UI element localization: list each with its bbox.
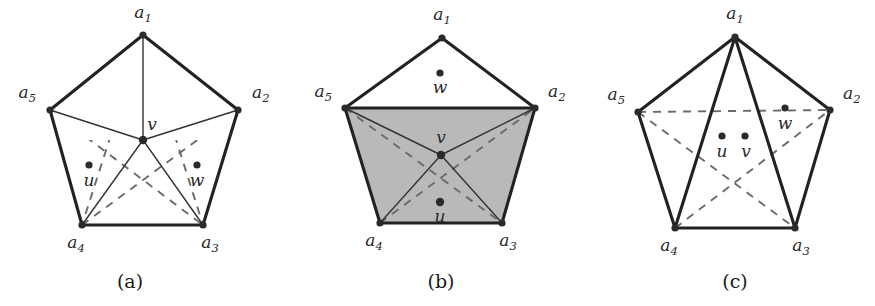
vertex-dot-a5 bbox=[634, 108, 641, 115]
vertex-dot-a3 bbox=[199, 221, 206, 228]
vertex-dot-a4 bbox=[78, 221, 85, 228]
figure-canvas: a1a2a3a4a5vuw(a)a1a2a3a4a5vuw(b)a1a2a3a4… bbox=[0, 0, 875, 306]
vertex-dot-a1 bbox=[139, 31, 146, 38]
point-label-w: w bbox=[190, 170, 205, 190]
vertex-dot-a5 bbox=[341, 104, 348, 111]
point-dot-u bbox=[436, 198, 444, 206]
vertex-dot-a1 bbox=[731, 33, 738, 40]
vertex-dot-a2 bbox=[234, 106, 241, 113]
point-label-u: u bbox=[717, 141, 728, 161]
vertex-dot-a4 bbox=[376, 219, 383, 226]
vertex-dot-a2 bbox=[531, 104, 538, 111]
panel-caption-b: (b) bbox=[428, 270, 455, 292]
vertex-dot-a2 bbox=[826, 106, 833, 113]
vertex-dot-a4 bbox=[671, 224, 678, 231]
point-dot-v bbox=[139, 136, 147, 144]
point-dot-u bbox=[718, 132, 725, 139]
panel-caption-a: (a) bbox=[117, 270, 143, 292]
point-label-w: w bbox=[433, 77, 448, 97]
vertex-dot-a5 bbox=[46, 106, 53, 113]
point-dot-w bbox=[781, 104, 788, 111]
point-label-w: w bbox=[778, 113, 793, 133]
point-dot-u bbox=[85, 161, 92, 168]
point-dot-w bbox=[193, 161, 200, 168]
point-label-v: v bbox=[741, 141, 751, 161]
panel-caption-c: (c) bbox=[722, 270, 747, 292]
point-dot-w bbox=[436, 69, 443, 76]
point-dot-v bbox=[741, 132, 748, 139]
point-label-u: u bbox=[84, 170, 95, 190]
point-label-v: v bbox=[147, 114, 157, 134]
vertex-dot-a1 bbox=[438, 34, 445, 41]
point-label-v: v bbox=[436, 127, 446, 147]
point-label-u: u bbox=[435, 206, 446, 226]
vertex-dot-a3 bbox=[498, 219, 505, 226]
point-dot-v bbox=[437, 151, 445, 159]
vertex-dot-a3 bbox=[791, 224, 798, 231]
